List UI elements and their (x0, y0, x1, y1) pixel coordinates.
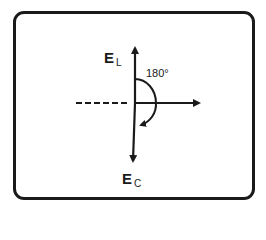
ec-label-sub: C (134, 178, 141, 189)
ec-vector-arrow (133, 103, 135, 161)
ec-label-main: E (122, 170, 132, 187)
ec-label: EC (122, 171, 141, 186)
el-label-main: E (104, 49, 114, 66)
angle-label: 180° (146, 68, 169, 79)
el-label: EL (104, 50, 122, 65)
el-label-sub: L (116, 57, 122, 68)
